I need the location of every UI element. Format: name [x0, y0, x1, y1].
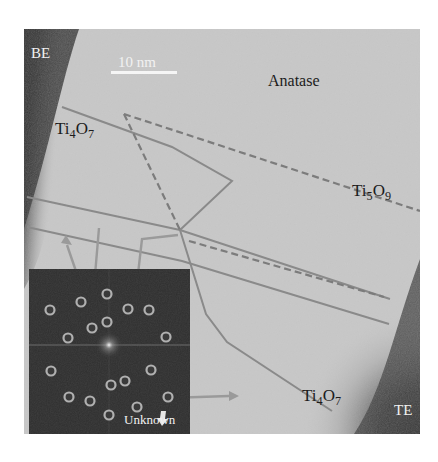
micrograph-image	[24, 29, 420, 434]
fft-inset	[29, 269, 190, 434]
top-electrode-label: TE	[394, 403, 412, 418]
ti4o7-top-sub2: 7	[88, 127, 94, 141]
ti5o9-base: Ti	[352, 181, 367, 200]
scale-bar-label: 10 nm	[118, 55, 156, 70]
tem-micrograph: BE TE 10 nm Anatase Ti4O7 Ti5O9 Ti4O7 Un…	[24, 29, 420, 434]
ti4o7-bottom-sub2: 7	[335, 394, 341, 408]
ti5o9-label: Ti5O9	[352, 182, 391, 199]
bottom-electrode-label: BE	[31, 46, 50, 61]
unknown-label: Unknown	[124, 413, 175, 426]
ti4o7-top-mid: O	[76, 119, 88, 138]
ti5o9-sub2: 9	[385, 189, 391, 203]
ti5o9-mid: O	[373, 181, 385, 200]
ti4o7-bottom-label: Ti4O7	[302, 387, 341, 404]
scale-bar	[111, 71, 177, 74]
ti4o7-bottom-base: Ti	[302, 386, 317, 405]
anatase-label: Anatase	[268, 73, 320, 89]
ti4o7-top-label: Ti4O7	[55, 120, 94, 137]
ti4o7-bottom-mid: O	[323, 386, 335, 405]
ti4o7-top-base: Ti	[55, 119, 70, 138]
